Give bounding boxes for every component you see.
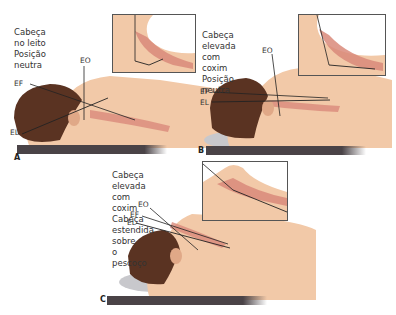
panel-a-label-ef: EF [14,79,23,88]
panel-a-label-el: EL [10,128,19,137]
panel-b-bed [206,146,366,155]
panel-b-letter: B [198,146,204,155]
panel-c-label-eo: EO [138,200,149,209]
panel-a-label-eo: EO [80,56,91,65]
panel-c-letter: C [100,295,106,304]
panel-c-label-el: EL [127,218,136,227]
panel-b-inset [298,14,386,76]
panel-a-inset [112,14,196,73]
panel-a-caption: Cabeça no leito Posição neutra [14,27,46,71]
panel-a-bed [17,145,167,154]
panel-c-caption-line3: o pescoço [112,247,154,269]
panel-b-caption-line1: Cabeça elevada com coxim [202,30,236,74]
panel-c-inset [202,161,288,221]
panel-c-bed [107,296,267,305]
panel-a-letter: A [14,153,20,162]
panel-b-label-eo: EO [262,46,273,55]
panel-b-label-el: EL [200,98,209,107]
panel-a-caption-line2: Posição neutra [14,49,46,71]
panel-b-label-ef: EF [200,87,209,96]
panel-a-caption-line1: Cabeça no leito [14,27,46,49]
